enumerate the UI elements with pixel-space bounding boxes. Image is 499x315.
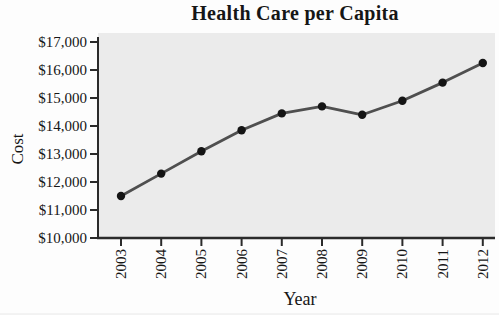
data-point-2011 bbox=[438, 78, 446, 86]
y-tick-label: $12,000 bbox=[38, 174, 87, 190]
x-tick-label: 2007 bbox=[274, 249, 290, 280]
x-tick-label: 2010 bbox=[394, 249, 410, 279]
x-tick-label: 2012 bbox=[475, 249, 491, 279]
data-point-2010 bbox=[398, 97, 406, 105]
y-tick-label: $10,000 bbox=[38, 230, 87, 246]
data-point-2005 bbox=[197, 147, 205, 155]
x-tick-label: 2004 bbox=[153, 249, 169, 280]
y-tick-label: $15,000 bbox=[38, 90, 87, 106]
plot-area bbox=[98, 33, 495, 238]
line-chart-canvas: $10,000$11,000$12,000$13,000$14,000$15,0… bbox=[0, 0, 499, 315]
data-point-2004 bbox=[157, 169, 165, 177]
x-tick-label: 2008 bbox=[314, 249, 330, 279]
data-point-2006 bbox=[237, 126, 245, 134]
x-tick-label: 2005 bbox=[193, 249, 209, 279]
data-point-2007 bbox=[278, 109, 286, 117]
data-point-2009 bbox=[358, 111, 366, 119]
x-tick-label: 2006 bbox=[234, 249, 250, 280]
health-care-chart-figure: Health Care per Capita Cost Year $10,000… bbox=[0, 0, 499, 315]
x-tick-label: 2003 bbox=[113, 249, 129, 279]
x-tick-label: 2011 bbox=[435, 249, 451, 278]
data-point-2008 bbox=[318, 102, 326, 110]
data-point-2003 bbox=[117, 192, 125, 200]
y-tick-label: $13,000 bbox=[38, 146, 87, 162]
y-tick-label: $14,000 bbox=[38, 118, 87, 134]
y-tick-label: $17,000 bbox=[38, 34, 87, 50]
y-tick-label: $16,000 bbox=[38, 62, 87, 78]
data-point-2012 bbox=[479, 59, 487, 67]
x-tick-label: 2009 bbox=[354, 249, 370, 279]
y-tick-label: $11,000 bbox=[39, 202, 87, 218]
